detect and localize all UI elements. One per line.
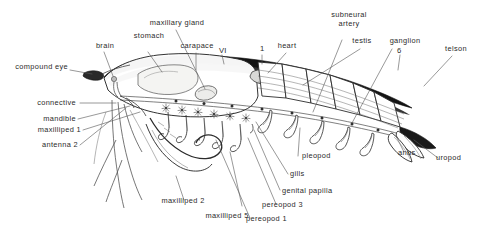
label-segment-six-roman: VI xyxy=(219,46,227,55)
pleopods-group xyxy=(258,110,374,156)
label-pereopod-3: pereopod 3 xyxy=(262,201,303,210)
label-genital-papilla: genital papilla xyxy=(282,187,332,196)
label-gills: gills xyxy=(290,170,304,179)
figure-canvas: compound eye brain stomach maxillary gla… xyxy=(0,0,490,239)
label-subneural-artery-line2: artery xyxy=(322,20,376,29)
label-anus: anus xyxy=(398,149,415,158)
label-ganglion: ganglion xyxy=(382,37,428,46)
label-maxilliped-1: maxilliped 1 xyxy=(6,126,81,135)
label-heart: heart xyxy=(268,42,306,51)
label-mandible: mandible xyxy=(6,115,76,124)
label-segment-one: 1 xyxy=(260,44,265,53)
label-uropod: uropod xyxy=(436,154,461,163)
label-testis: testis xyxy=(344,37,380,46)
compound-eye-shape xyxy=(83,71,104,81)
maxilliped-2-outline xyxy=(146,124,212,171)
label-stomach: stomach xyxy=(126,32,172,41)
label-pereopod-1: pereopod 1 xyxy=(246,215,287,224)
brain-organ xyxy=(111,76,116,81)
label-antenna-2: antenna 2 xyxy=(6,141,78,150)
label-telson: telson xyxy=(436,45,476,54)
label-brain: brain xyxy=(84,42,126,51)
antenna-2-filaments xyxy=(94,100,142,208)
label-compound-eye: compound eye xyxy=(6,63,68,72)
label-carapace: carapace xyxy=(172,42,222,51)
label-maxillary-gland: maxillary gland xyxy=(130,19,224,28)
stomach-organ xyxy=(138,65,198,95)
label-pleopod: pleopod xyxy=(302,152,331,161)
label-segment-six: 6 xyxy=(397,46,402,55)
label-connective: connective xyxy=(6,99,76,108)
pereopods-group xyxy=(158,112,241,152)
label-maxilliped-2: maxilliped 2 xyxy=(142,197,224,206)
genital-papilla-structure xyxy=(250,124,253,133)
